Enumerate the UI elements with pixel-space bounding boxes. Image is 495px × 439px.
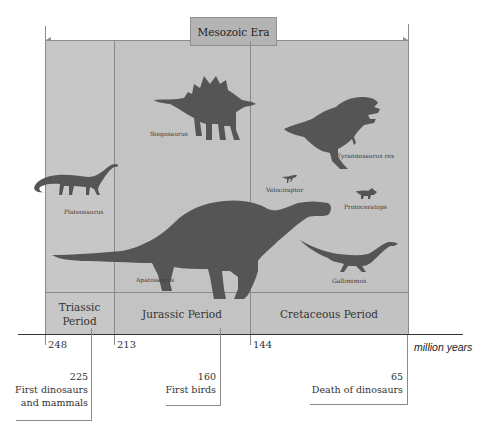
gallimimus-icon bbox=[300, 240, 398, 276]
tyrannosaurus-label: Tyrannosaurus rex bbox=[337, 152, 394, 159]
event-160-leader bbox=[220, 328, 221, 406]
tick-213 bbox=[114, 335, 115, 345]
velociraptor-label: Velociraptor bbox=[266, 186, 303, 193]
event-225-year: 225 bbox=[10, 370, 88, 383]
event-225-leader bbox=[91, 328, 92, 421]
triassic-line1: Triassic bbox=[45, 300, 114, 314]
event-65-year: 65 bbox=[300, 370, 403, 383]
tyrannosaurus-icon bbox=[282, 95, 382, 175]
tick-248 bbox=[45, 335, 46, 345]
era-span-right-tick bbox=[408, 24, 409, 42]
event-160-year: 160 bbox=[150, 370, 216, 383]
triassic-line2: Period bbox=[45, 314, 114, 328]
apatosaurus-icon bbox=[52, 197, 332, 301]
event-225-underline bbox=[16, 420, 92, 421]
event-65-line1: Death of dinosaurs bbox=[300, 383, 403, 396]
stegosaurus-label: Stegosaurus bbox=[150, 130, 188, 137]
event-160: 160 First birds bbox=[150, 370, 216, 396]
tick-144 bbox=[250, 335, 251, 345]
event-65: 65 Death of dinosaurs bbox=[300, 370, 403, 396]
timeline-axis bbox=[18, 334, 463, 335]
event-225-line1: First dinosaurs bbox=[10, 383, 88, 396]
period-label-cretaceous: Cretaceous Period bbox=[250, 307, 408, 321]
plateosaurus-icon bbox=[32, 162, 122, 198]
apatosaurus-label: Apatosaurus bbox=[136, 276, 174, 283]
event-65-leader bbox=[407, 335, 408, 405]
tick-label-213: 213 bbox=[117, 339, 136, 350]
period-label-triassic: Triassic Period bbox=[45, 300, 114, 328]
era-title: Mesozoic Era bbox=[197, 26, 269, 38]
velociraptor-icon bbox=[282, 174, 298, 184]
event-160-line1: First birds bbox=[150, 383, 216, 396]
tick-label-144: 144 bbox=[253, 339, 272, 350]
event-225-line2: and mammals bbox=[10, 396, 88, 409]
period-label-jurassic: Jurassic Period bbox=[114, 307, 250, 321]
era-title-box: Mesozoic Era bbox=[190, 17, 277, 46]
event-160-underline bbox=[166, 405, 221, 406]
gallimimus-label: Gallimimus bbox=[332, 277, 366, 284]
tick-label-248: 248 bbox=[48, 339, 67, 350]
protoceratops-icon bbox=[356, 187, 378, 200]
axis-unit-label: million years bbox=[414, 341, 472, 353]
protoceratops-label: Protoceratops bbox=[344, 203, 387, 210]
event-225: 225 First dinosaurs and mammals bbox=[10, 370, 88, 409]
event-65-underline bbox=[310, 404, 408, 405]
panel-right-border bbox=[408, 41, 409, 334]
